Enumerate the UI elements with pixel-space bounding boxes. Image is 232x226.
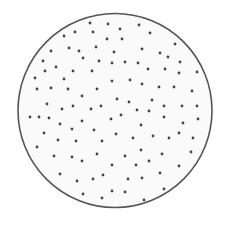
dot (107, 23, 110, 26)
dot (38, 116, 41, 119)
dot (179, 61, 182, 64)
dot (163, 188, 166, 191)
dot (110, 118, 113, 121)
dot (92, 178, 95, 181)
dot (81, 160, 84, 163)
dot (89, 22, 92, 25)
dot (63, 78, 66, 81)
dot (196, 105, 199, 108)
dot (148, 110, 151, 113)
dot (143, 199, 146, 202)
dot (197, 118, 200, 121)
dot (141, 48, 144, 51)
dot (106, 38, 109, 41)
dot (182, 122, 185, 125)
dot (141, 177, 144, 180)
dot (140, 149, 143, 152)
dot (96, 153, 99, 156)
dot (121, 38, 124, 41)
dot (53, 155, 56, 158)
dot (98, 60, 101, 63)
dot (90, 108, 93, 111)
dot (192, 137, 195, 140)
dot-diagram (0, 0, 232, 226)
dot (178, 72, 181, 75)
dot (136, 109, 139, 112)
dot (119, 28, 122, 31)
dot (174, 43, 177, 46)
dot (149, 32, 152, 35)
dot (111, 80, 114, 83)
dot (101, 140, 104, 143)
dot (46, 103, 49, 106)
dot (48, 117, 51, 120)
dot (159, 52, 162, 55)
dot (113, 51, 116, 54)
dot (74, 31, 77, 34)
dot (36, 146, 39, 149)
dot (92, 31, 95, 34)
dot (72, 105, 75, 108)
dot (61, 108, 64, 111)
dot (71, 156, 74, 159)
dot (116, 98, 119, 101)
dot (124, 61, 127, 64)
dot (57, 139, 60, 142)
dot (75, 140, 78, 143)
dot (50, 87, 53, 90)
dot (127, 178, 130, 181)
dot (72, 70, 75, 73)
dot (124, 191, 127, 194)
dot (55, 66, 58, 69)
dot (138, 24, 141, 27)
dot (129, 79, 132, 82)
dot (115, 133, 118, 136)
dot (111, 164, 114, 167)
dot (91, 70, 94, 73)
dot (158, 86, 161, 89)
dot (29, 116, 32, 119)
dot (36, 88, 39, 91)
dot (163, 116, 166, 119)
dot (82, 193, 85, 196)
dot (50, 50, 53, 53)
dot (68, 47, 71, 50)
dot (151, 99, 154, 102)
dot (132, 137, 135, 140)
dot (67, 88, 70, 91)
dot (191, 90, 194, 93)
dot (42, 60, 45, 63)
dot (111, 62, 114, 65)
dot (163, 105, 166, 108)
dot (124, 155, 127, 158)
dot (82, 57, 85, 60)
boundary-circle (18, 14, 212, 208)
dot (71, 128, 74, 131)
dot (128, 101, 131, 104)
dot (161, 153, 164, 156)
dot (93, 129, 96, 132)
dot (34, 77, 37, 80)
dot (44, 70, 47, 73)
dot (102, 174, 105, 177)
dot (135, 164, 138, 167)
dot (181, 105, 184, 108)
dot (167, 56, 170, 59)
dot (101, 197, 104, 200)
dot (96, 88, 99, 91)
dot (173, 86, 176, 89)
dot (152, 135, 155, 138)
dot (78, 50, 81, 53)
dot (137, 62, 140, 65)
dot (81, 120, 84, 123)
dot (111, 190, 114, 193)
dot (140, 124, 143, 127)
dot (168, 137, 171, 140)
dot (120, 114, 123, 117)
dot (59, 123, 62, 126)
dot (159, 172, 162, 175)
dot (95, 46, 98, 49)
dot (76, 180, 79, 183)
dot (147, 68, 150, 71)
dot (100, 105, 103, 108)
